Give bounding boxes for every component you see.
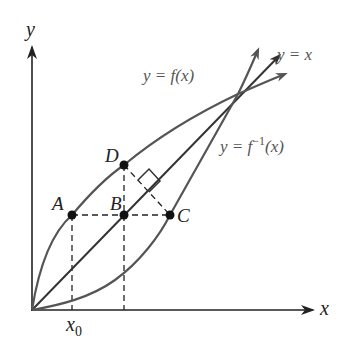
- x0-subscript: 0: [75, 324, 82, 339]
- point-D: [120, 161, 129, 170]
- label-A: A: [50, 193, 64, 214]
- identity-line: [32, 56, 279, 310]
- label-D: D: [104, 145, 119, 166]
- f-inverse-label-exponent: −1: [252, 134, 265, 148]
- identity-label: y = x: [275, 45, 313, 64]
- x0-base: x: [65, 313, 75, 335]
- f-curve: [32, 74, 285, 310]
- y-axis-label: y: [24, 18, 35, 41]
- label-C: C: [177, 205, 190, 226]
- f-label: y = f(x): [141, 66, 194, 85]
- f-inverse-label-suffix: (x): [265, 137, 284, 156]
- point-C: [166, 211, 175, 220]
- f-inverse-curve: [32, 50, 258, 310]
- point-A: [68, 211, 77, 220]
- x-axis-label: x: [319, 297, 329, 319]
- inverse-function-diagram: y x x0 A B C D y = x y = f(x) y = f−1(x): [0, 0, 344, 347]
- x0-tick-label: x0: [65, 313, 82, 339]
- f-inverse-label: y = f−1(x): [218, 134, 284, 156]
- f-inverse-label-prefix: y = f: [218, 137, 255, 156]
- label-B: B: [110, 193, 122, 214]
